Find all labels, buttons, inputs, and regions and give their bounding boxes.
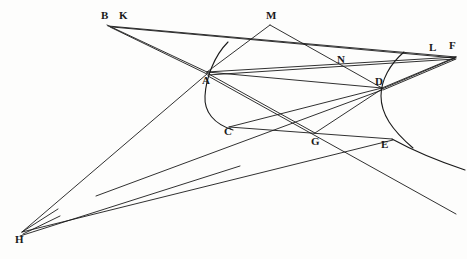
point-label-N: N — [337, 53, 345, 65]
segments-layer — [20, 25, 456, 236]
point-label-E: E — [381, 138, 388, 150]
point-label-M: M — [266, 9, 277, 21]
point-labels-layer: BKMNLFADCGEH — [15, 9, 456, 245]
geometric-figure: BKMNLFADCGEH — [0, 0, 467, 259]
segment-H-to-A-ray — [22, 74, 207, 232]
segment-H-stub-upper — [22, 209, 58, 232]
segment-M-to-A — [207, 25, 270, 72]
point-label-H: H — [15, 233, 24, 245]
point-label-F: F — [449, 39, 456, 51]
segment-D-to-C — [229, 88, 382, 127]
segment-B-to-F-long — [108, 26, 456, 57]
segment-D-to-F-lower — [383, 59, 456, 90]
point-label-B: B — [101, 9, 109, 21]
segment-B-to-A-upper — [107, 25, 207, 72]
point-label-D: D — [375, 75, 383, 87]
segment-H-baseline-ray — [20, 166, 240, 236]
point-label-C: C — [224, 125, 232, 137]
segment-M-to-D-through-N — [270, 25, 382, 88]
segment-H-to-E-ray — [22, 140, 393, 232]
curve-right-conic-branch — [381, 52, 413, 148]
point-label-A: A — [202, 74, 210, 86]
point-label-G: G — [311, 135, 320, 147]
curve-right-tail — [392, 139, 465, 170]
point-label-K: K — [119, 9, 128, 21]
point-label-L: L — [429, 41, 436, 53]
segment-A-to-D — [207, 72, 382, 88]
segment-A-to-G — [207, 73, 315, 133]
segment-A-to-F-lower-through-G — [208, 76, 456, 214]
segment-D-to-H-long — [96, 90, 382, 196]
